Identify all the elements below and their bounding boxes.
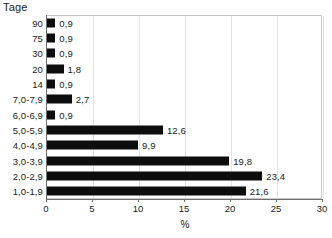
bar: [47, 64, 64, 73]
category-label: 20: [32, 63, 43, 74]
bar-row: 140,9: [0, 76, 332, 91]
bar: [47, 33, 55, 42]
bar: [47, 141, 138, 150]
y-axis-title: Tage: [3, 1, 28, 13]
bar-row: 201,8: [0, 61, 332, 76]
bar: [47, 95, 72, 104]
bar-row: 750,9: [0, 30, 332, 45]
x-tick-mark: [184, 199, 185, 202]
bar: [47, 171, 262, 180]
x-tick-label: 10: [133, 203, 144, 214]
category-label: 5,0-5,9: [13, 124, 43, 135]
bar-row: 5,0-5,912,6: [0, 122, 332, 137]
x-axis-title: %: [181, 219, 190, 230]
category-label: 1,0-1,9: [13, 186, 43, 197]
bar-rows: 900,9750,9300,9201,8140,97,0-7,92,76,0-6…: [0, 15, 332, 199]
value-label: 21,6: [250, 186, 269, 197]
value-label: 12,6: [167, 124, 186, 135]
x-tick-mark: [46, 199, 47, 202]
x-axis-ticks: 051015202530: [0, 199, 332, 219]
category-label: 75: [32, 32, 43, 43]
bar-row: 3,0-3,919,8: [0, 153, 332, 168]
bar-row: 900,9: [0, 15, 332, 30]
bar-chart: Tage 900,9750,9300,9201,8140,97,0-7,92,7…: [0, 0, 332, 238]
value-label: 0,9: [59, 109, 73, 120]
category-label: 14: [32, 78, 43, 89]
category-label: 7,0-7,9: [13, 94, 43, 105]
value-label: 19,8: [233, 155, 252, 166]
bar-row: 6,0-6,90,9: [0, 107, 332, 122]
category-label: 30: [32, 48, 43, 59]
bar: [47, 49, 55, 58]
x-tick-label: 5: [89, 203, 94, 214]
x-tick-label: 0: [43, 203, 48, 214]
category-label: 2,0-2,9: [13, 170, 43, 181]
category-label: 6,0-6,9: [13, 109, 43, 120]
x-tick-mark: [138, 199, 139, 202]
bar: [47, 156, 229, 165]
value-label: 1,8: [68, 63, 82, 74]
bar: [47, 110, 55, 119]
bar-row: 2,0-2,923,4: [0, 168, 332, 183]
bar: [47, 79, 55, 88]
x-tick-label: 20: [225, 203, 236, 214]
value-label: 9,9: [142, 140, 156, 151]
bar-row: 1,0-1,921,6: [0, 184, 332, 199]
category-label: 90: [32, 17, 43, 28]
bar-row: 300,9: [0, 46, 332, 61]
value-label: 0,9: [59, 48, 73, 59]
value-label: 0,9: [59, 32, 73, 43]
value-label: 2,7: [76, 94, 90, 105]
x-tick-label: 25: [271, 203, 282, 214]
category-label: 4,0-4,9: [13, 140, 43, 151]
x-tick-label: 15: [179, 203, 190, 214]
value-label: 0,9: [59, 78, 73, 89]
x-tick-mark: [276, 199, 277, 202]
x-tick-mark: [322, 199, 323, 202]
bar: [47, 187, 246, 196]
bar: [47, 125, 163, 134]
x-tick-mark: [230, 199, 231, 202]
bar-row: 7,0-7,92,7: [0, 92, 332, 107]
bar-row: 4,0-4,99,9: [0, 138, 332, 153]
x-tick-label: 30: [317, 203, 328, 214]
x-tick-mark: [92, 199, 93, 202]
value-label: 0,9: [59, 17, 73, 28]
value-label: 23,4: [266, 170, 285, 181]
category-label: 3,0-3,9: [13, 155, 43, 166]
bar: [47, 18, 55, 27]
